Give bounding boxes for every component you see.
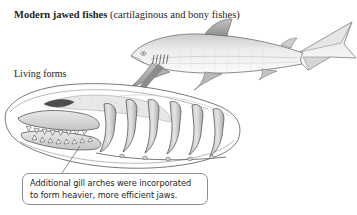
shark-skull-illustration	[5, 84, 240, 169]
callout-line-2: to form heavier, more efficient jaws.	[30, 190, 200, 202]
figure-panel: Modern jawed fishes (cartilaginous and b…	[0, 0, 357, 215]
callout-line-1: Additional gill arches were incorporated	[30, 178, 200, 190]
title-bold: Modern jawed fishes	[14, 9, 107, 20]
shark-illustration	[124, 19, 356, 92]
callout-box: Additional gill arches were incorporated…	[22, 173, 208, 205]
page-title: Modern jawed fishes (cartilaginous and b…	[14, 9, 240, 21]
living-forms-label: Living forms	[14, 68, 67, 79]
title-parenthetical: (cartilaginous and bony fishes)	[107, 9, 239, 20]
